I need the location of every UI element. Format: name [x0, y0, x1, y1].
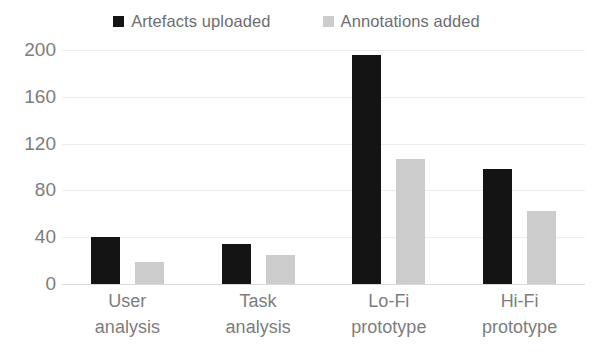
x-axis-tick-label: Hi-Fiprototype — [454, 289, 585, 340]
bar-1-2 — [396, 159, 425, 284]
legend-label-series-0: Artefacts uploaded — [131, 12, 270, 31]
gridline — [62, 144, 585, 145]
x-axis-tick-label-line: Hi-Fi — [501, 291, 539, 311]
legend-swatch-icon-series-0 — [113, 16, 124, 27]
y-axis-tick-label: 200 — [24, 39, 56, 61]
y-axis: 04080120160200 — [0, 50, 56, 284]
x-axis-tick-label-line: analysis — [193, 315, 324, 341]
bar-0-0 — [91, 237, 120, 284]
x-axis-baseline — [62, 284, 585, 285]
plot-area — [62, 50, 585, 284]
gridline — [62, 97, 585, 98]
y-axis-tick-label: 80 — [35, 179, 56, 201]
y-axis-tick-label: 120 — [24, 132, 56, 154]
x-axis: UseranalysisTaskanalysisLo-FiprototypeHi… — [62, 289, 585, 351]
bar-0-3 — [483, 169, 512, 284]
legend-swatch-icon-series-1 — [323, 16, 334, 27]
x-axis-tick-label: Useranalysis — [62, 289, 193, 340]
x-axis-tick-label-line: Lo-Fi — [368, 291, 409, 311]
bar-1-3 — [527, 211, 556, 284]
legend-label-series-1: Annotations added — [341, 12, 480, 31]
legend-entry-annotations-added: Annotations added — [323, 12, 480, 31]
bar-0-1 — [222, 244, 251, 284]
bar-0-2 — [352, 55, 381, 284]
bar-1-1 — [266, 255, 295, 284]
x-axis-tick-label-line: analysis — [62, 315, 193, 341]
y-axis-tick-label: 0 — [45, 273, 56, 295]
bar-chart: Artefacts uploaded Annotations added 040… — [0, 0, 593, 353]
legend-entry-artefacts-uploaded: Artefacts uploaded — [113, 12, 270, 31]
chart-legend: Artefacts uploaded Annotations added — [0, 6, 593, 36]
x-axis-tick-label-line: User — [108, 291, 146, 311]
x-axis-tick-label-line: prototype — [324, 315, 455, 341]
y-axis-tick-label: 40 — [35, 226, 56, 248]
x-axis-tick-label-line: prototype — [454, 315, 585, 341]
x-axis-tick-label: Taskanalysis — [193, 289, 324, 340]
x-axis-tick-label: Lo-Fiprototype — [324, 289, 455, 340]
bar-1-0 — [135, 262, 164, 284]
y-axis-tick-label: 160 — [24, 85, 56, 107]
x-axis-tick-label-line: Task — [240, 291, 277, 311]
gridline — [62, 50, 585, 51]
